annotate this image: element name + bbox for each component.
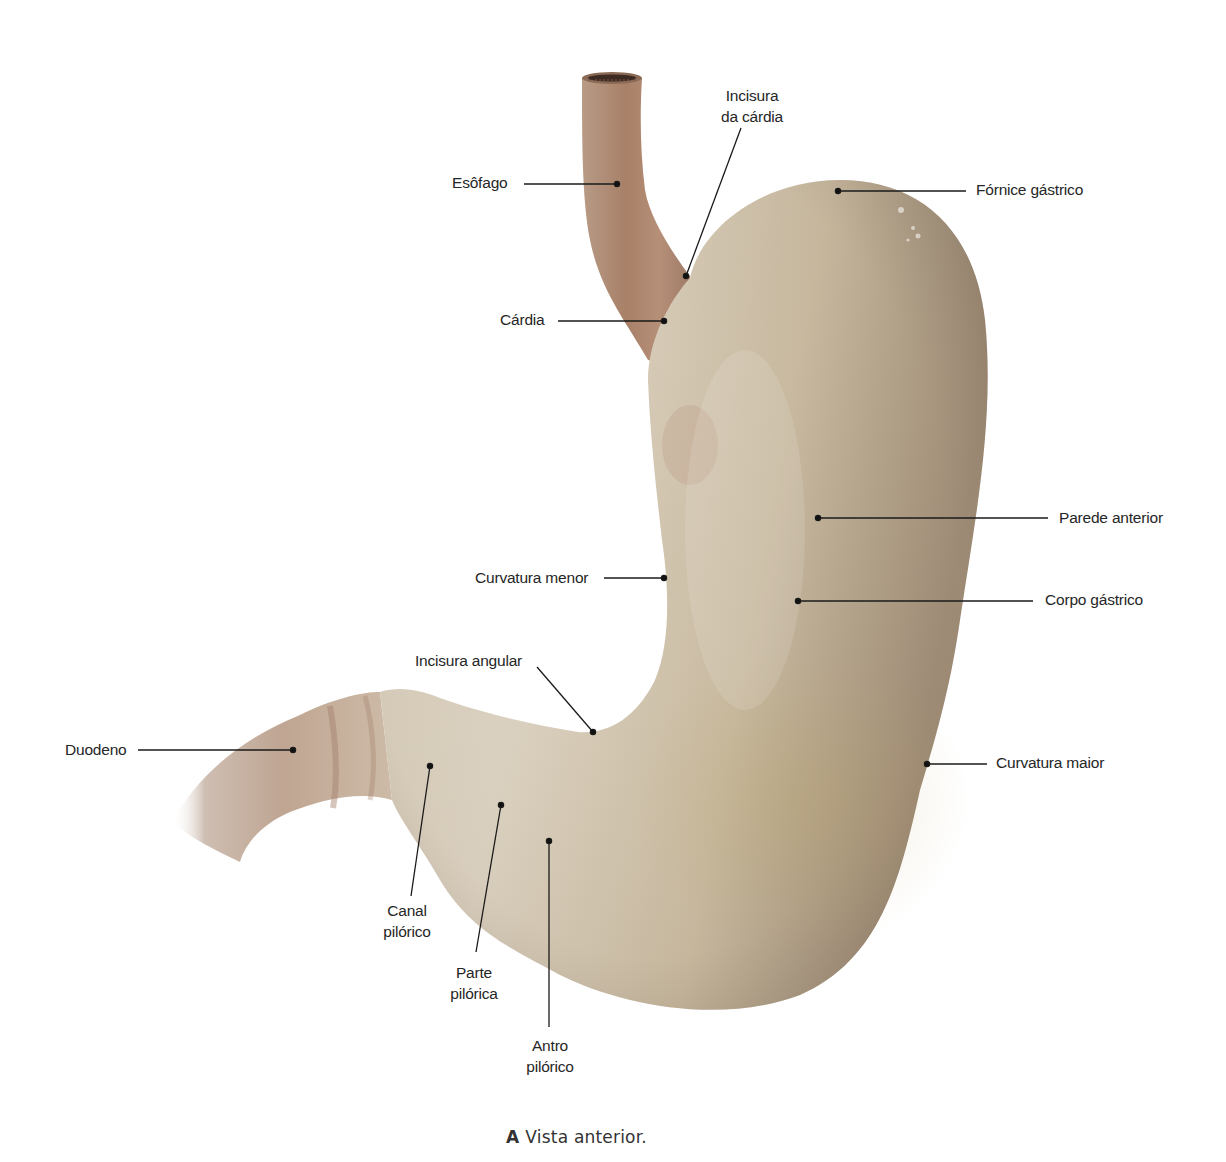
figure-caption: AVista anterior. — [506, 1127, 647, 1147]
duodenum-shape — [172, 692, 392, 862]
caption-letter: A — [506, 1127, 519, 1147]
label-curvatura-maior: Curvatura maior — [996, 752, 1104, 773]
label-parte-pilorica-line1: Parte — [442, 962, 506, 983]
label-antro-pilorico-line2: pilórico — [518, 1056, 582, 1077]
label-incisura-da-cardia-line2: da cárdia — [712, 106, 792, 127]
label-incisura-angular: Incisura angular — [415, 650, 522, 671]
label-incisura-da-cardia: Incisura da cárdia — [712, 85, 792, 127]
label-corpo-gastrico: Corpo gástrico — [1045, 589, 1143, 610]
label-parede-anterior: Parede anterior — [1059, 507, 1163, 528]
stomach-anatomy-illustration — [0, 0, 1226, 1162]
label-parte-pilorica: Parte pilórica — [442, 962, 506, 1004]
label-fornice-gastrico: Fórnice gástrico — [976, 179, 1083, 200]
label-antro-pilorico-line1: Antro — [518, 1035, 582, 1056]
label-esofago: Esôfago — [452, 172, 507, 193]
caption-text: Vista anterior. — [525, 1127, 647, 1147]
label-curvatura-menor: Curvatura menor — [475, 567, 588, 588]
label-duodeno: Duodeno — [65, 739, 127, 760]
label-parte-pilorica-line2: pilórica — [442, 983, 506, 1004]
label-incisura-da-cardia-line1: Incisura — [712, 85, 792, 106]
label-antro-pilorico: Antro pilórico — [518, 1035, 582, 1077]
label-canal-pilorico-line1: Canal — [376, 900, 438, 921]
label-canal-pilorico-line2: pilórico — [376, 921, 438, 942]
label-canal-pilorico: Canal pilórico — [376, 900, 438, 942]
stomach-body-shape — [380, 180, 988, 1010]
label-cardia: Cárdia — [500, 309, 544, 330]
